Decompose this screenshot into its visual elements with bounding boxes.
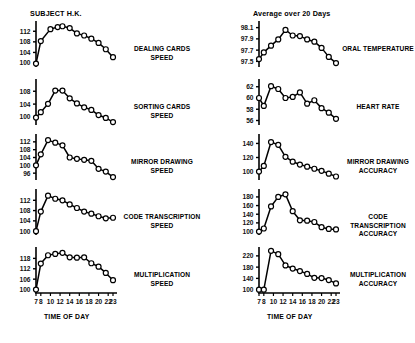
data-point-marker xyxy=(38,152,43,157)
y-axis-tick-label: 112 xyxy=(20,28,31,35)
data-point-marker xyxy=(53,140,58,145)
data-point-marker xyxy=(290,159,295,164)
series-label: MULTIPLICATION SPEED xyxy=(118,271,206,287)
data-point-marker xyxy=(96,113,101,118)
data-point-marker xyxy=(326,54,331,59)
x-axis-tick-label: 8 xyxy=(39,298,43,305)
data-point-marker xyxy=(103,270,108,275)
x-axis-tick-label: 12 xyxy=(56,298,64,305)
data-point-marker xyxy=(297,218,302,223)
data-point-marker xyxy=(96,40,101,45)
chart-panel: 100104108112 xyxy=(2,14,119,75)
data-point-marker xyxy=(89,261,94,266)
y-axis-tick-label: 100 xyxy=(19,228,30,235)
data-point-marker xyxy=(60,250,65,255)
series-label: CODE TRANSCRIPTION ACCURACY xyxy=(341,213,415,238)
x-axis-tick-label: 16 xyxy=(76,298,84,305)
data-point-marker xyxy=(257,96,262,101)
y-axis-tick-label: 140 xyxy=(242,275,253,282)
data-point-marker xyxy=(319,225,324,230)
data-point-marker xyxy=(60,24,65,29)
data-point-marker xyxy=(319,45,324,50)
data-point-marker xyxy=(297,269,302,274)
y-axis-tick-label: 104 xyxy=(19,101,30,108)
data-point-marker xyxy=(89,211,94,216)
x-axis-tick-label: 18 xyxy=(85,298,93,305)
y-axis-tick-label: 108 xyxy=(19,207,30,214)
y-axis-tick-label: 120 xyxy=(242,219,253,226)
data-point-marker xyxy=(74,206,79,211)
data-point-marker xyxy=(46,253,51,258)
y-axis-tick-label: 97.5 xyxy=(241,58,254,65)
y-axis-tick-label: 100 xyxy=(242,228,253,235)
data-point-marker xyxy=(326,278,331,283)
series-label: DEALING CARDS SPEED xyxy=(118,45,206,61)
data-point-marker xyxy=(38,110,43,115)
chart-plot: 100120140 xyxy=(225,127,342,188)
data-point-marker xyxy=(297,90,302,95)
y-axis-tick-label: 140 xyxy=(242,140,253,147)
data-point-marker xyxy=(96,264,101,269)
chart-plot: 100104108112 xyxy=(2,14,119,75)
data-point-marker xyxy=(334,61,339,66)
data-point-marker xyxy=(46,193,51,198)
data-point-marker xyxy=(55,25,60,30)
data-point-marker xyxy=(257,229,262,234)
data-point-marker xyxy=(290,209,295,214)
data-series-line xyxy=(259,194,336,231)
chart-plot: 100106112118781012141618202223 xyxy=(2,240,119,315)
data-point-marker xyxy=(67,96,72,101)
data-point-marker xyxy=(82,33,87,38)
x-axis-tick-label: 20 xyxy=(318,298,326,305)
data-point-marker xyxy=(60,143,65,148)
circadian-rhythm-figure: SUBJECT H.K. Average over 20 Days 100104… xyxy=(0,0,415,343)
data-point-marker xyxy=(312,275,317,280)
y-axis-tick-label: 108 xyxy=(19,38,30,45)
series-label: HEART RATE xyxy=(341,103,415,111)
y-axis-tick-label: 108 xyxy=(19,146,30,153)
data-point-marker xyxy=(67,26,72,31)
x-axis-title-right: TIME OF DAY xyxy=(267,313,312,320)
data-point-marker xyxy=(38,39,43,44)
chart-panel: 100104108 xyxy=(2,72,119,133)
y-axis-tick-label: 120 xyxy=(242,154,253,161)
y-axis-tick-label: 112 xyxy=(20,265,31,272)
data-point-marker xyxy=(319,276,324,281)
data-point-marker xyxy=(46,101,51,106)
y-axis-tick-label: 220 xyxy=(242,252,253,259)
series-label: SORTING CARDS SPEED xyxy=(118,103,206,119)
chart-plot: 100104108 xyxy=(2,72,119,133)
data-point-marker xyxy=(82,255,87,260)
data-point-marker xyxy=(283,192,288,197)
data-point-marker xyxy=(82,157,87,162)
data-point-marker xyxy=(60,88,65,93)
y-axis-tick-label: 62 xyxy=(246,83,254,90)
y-axis-tick-label: 60 xyxy=(246,94,254,101)
y-axis-tick-label: 140 xyxy=(242,211,253,218)
data-point-marker xyxy=(67,202,72,207)
data-point-marker xyxy=(103,216,108,221)
x-axis-tick-label: 16 xyxy=(299,298,307,305)
data-point-marker xyxy=(34,61,39,66)
x-axis-tick-label: 7 xyxy=(34,298,38,305)
data-point-marker xyxy=(283,27,288,32)
data-point-marker xyxy=(334,116,339,121)
data-point-marker xyxy=(74,156,79,161)
y-axis-tick-label: 97.7 xyxy=(241,47,254,54)
data-point-marker xyxy=(305,218,310,223)
chart-plot: 100104108112 xyxy=(2,182,119,243)
data-point-marker xyxy=(319,168,324,173)
y-axis-tick-label: 100 xyxy=(242,286,253,293)
data-point-marker xyxy=(89,107,94,112)
data-point-marker xyxy=(297,34,302,39)
data-point-marker xyxy=(48,27,53,32)
data-point-marker xyxy=(276,194,281,199)
data-point-marker xyxy=(74,31,79,36)
x-axis-tick-label: 7 xyxy=(257,298,261,305)
data-point-marker xyxy=(326,226,331,231)
data-point-marker xyxy=(276,37,281,42)
data-point-marker xyxy=(111,175,116,180)
data-point-marker xyxy=(334,174,339,179)
series-label: ORAL TEMPERATURE xyxy=(341,45,415,53)
chart-plot: 100120140160180 xyxy=(225,182,342,243)
